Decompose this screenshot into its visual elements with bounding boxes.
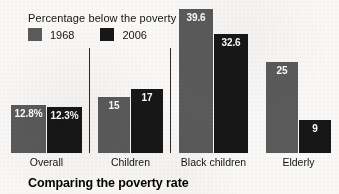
category-label-overall: Overall (11, 156, 82, 168)
bar-children-1968: 15 (98, 97, 130, 153)
bar-value-overall-1968: 12.8% (11, 108, 46, 119)
bar-value-children-2006: 17 (131, 92, 163, 103)
chart-title: Comparing the poverty rate (28, 176, 189, 190)
bar-value-overall-2006: 12.3% (47, 110, 82, 121)
bar-elderly-2006: 9 (299, 120, 331, 153)
group-divider-2 (170, 48, 171, 153)
bar-overall-1968: 12.8% (11, 105, 46, 153)
bar-elderly-1968: 25 (266, 62, 298, 153)
bar-children-2006: 17 (131, 89, 163, 153)
category-label-children: Children (97, 156, 164, 168)
bar-black-children-1968: 39.6 (179, 9, 213, 153)
bar-value-children-1968: 15 (98, 100, 130, 111)
bar-value-black-children-1968: 39.6 (179, 12, 213, 23)
plot-area: 12.8% 12.3% Overall 15 17 Children 39.6 … (0, 0, 339, 194)
bar-value-black-children-2006: 32.6 (214, 37, 248, 48)
bar-black-children-2006: 32.6 (214, 34, 248, 153)
group-divider-1 (89, 48, 90, 153)
bar-overall-2006: 12.3% (47, 107, 82, 153)
bar-value-elderly-1968: 25 (266, 65, 298, 76)
bar-value-elderly-2006: 9 (299, 123, 331, 134)
category-label-elderly: Elderly (265, 156, 332, 168)
poverty-rate-bar-chart: Percentage below the poverty line 1968 2… (0, 0, 339, 194)
category-label-black-children: Black children (176, 156, 251, 168)
